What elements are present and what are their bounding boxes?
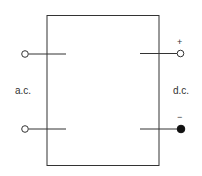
ac-label: a.c.	[15, 86, 31, 96]
dc-label: d.c.	[173, 86, 189, 96]
ac-terminal-bottom-icon	[22, 126, 29, 133]
negative-sign: −	[177, 113, 182, 122]
rectifier-box	[47, 16, 159, 166]
dc-terminal-negative-icon	[177, 125, 185, 133]
dc-terminal-positive-icon	[177, 50, 184, 57]
positive-sign: +	[177, 38, 182, 47]
ac-terminal-top-icon	[22, 51, 29, 58]
rectifier-diagram: + − a.c. d.c.	[0, 0, 202, 176]
